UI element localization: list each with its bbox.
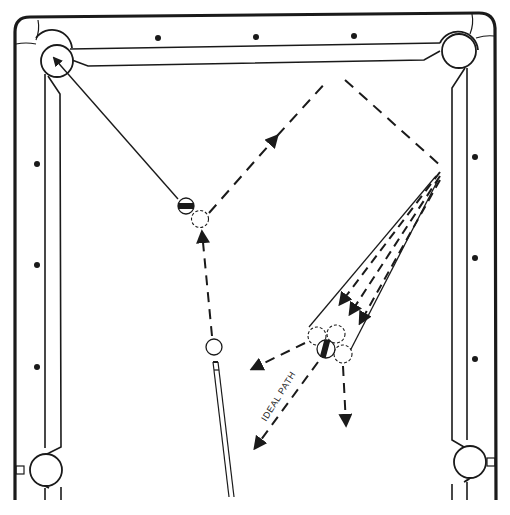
bottom-right-pocket — [454, 446, 495, 482]
deflection-down — [343, 366, 346, 425]
bottom-left-pocket — [16, 453, 62, 488]
top-right-pocket — [440, 14, 494, 68]
striped-object-ball — [178, 198, 194, 214]
left-cushion — [45, 74, 61, 500]
approach-cone — [309, 176, 438, 351]
cue-path — [202, 232, 212, 336]
deflection-paths — [252, 343, 346, 448]
right-cushion — [452, 68, 467, 500]
ghost-ball — [192, 211, 209, 228]
deflection-left — [252, 343, 305, 369]
cue-ball — [206, 339, 222, 355]
object-ball-path — [54, 58, 178, 199]
cue-stick — [213, 362, 234, 497]
top-cushion — [70, 43, 440, 66]
striped-cluster-ball — [317, 339, 335, 358]
rail-diamonds — [34, 33, 478, 370]
billiards-diagram: IDEAL PATH — [0, 0, 510, 515]
bank-path — [209, 80, 442, 213]
top-left-pocket — [16, 20, 73, 77]
approach-arrows — [340, 172, 440, 323]
diagram-canvas: IDEAL PATH — [0, 0, 510, 515]
table-frame — [15, 13, 496, 500]
